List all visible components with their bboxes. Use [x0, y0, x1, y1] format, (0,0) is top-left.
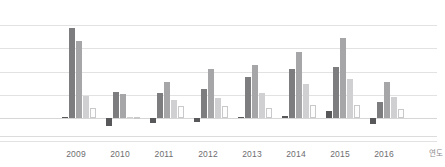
x-tick-label: 2010	[100, 149, 140, 159]
x-tick-label: 2016	[364, 149, 404, 159]
bar	[384, 82, 390, 118]
bar	[354, 105, 360, 118]
bar	[171, 100, 177, 118]
bar	[333, 67, 339, 118]
bar	[303, 84, 309, 118]
bar	[113, 92, 119, 118]
bar-group	[282, 0, 326, 137]
bar	[83, 96, 89, 118]
bar	[222, 106, 228, 118]
bar-group	[194, 0, 238, 137]
bar	[326, 111, 332, 118]
bar	[238, 117, 244, 118]
bar	[259, 93, 265, 118]
bar	[62, 117, 68, 118]
bar	[391, 97, 397, 118]
bar	[150, 118, 156, 123]
bar	[208, 69, 214, 118]
bar	[340, 38, 346, 118]
bar	[201, 89, 207, 118]
x-axis: 연도 20092010201120122013201420152016	[0, 137, 445, 167]
bar	[310, 105, 316, 118]
x-tick-label: 2013	[232, 149, 272, 159]
bar-group	[150, 0, 194, 137]
bar-group	[370, 0, 414, 137]
bar	[245, 77, 251, 118]
bar	[347, 79, 353, 118]
bar	[215, 98, 221, 118]
bar	[120, 94, 126, 118]
bar	[164, 82, 170, 118]
bar	[398, 109, 404, 118]
bar	[194, 118, 200, 122]
bar	[370, 118, 376, 124]
bar-chart: 연도 20092010201120122013201420152016	[0, 0, 445, 167]
bar	[157, 93, 163, 118]
bar-group	[326, 0, 370, 137]
x-tick-label: 2011	[144, 149, 184, 159]
bar	[134, 117, 140, 119]
bar	[76, 41, 82, 118]
bar	[289, 69, 295, 118]
bar	[178, 106, 184, 118]
bar	[90, 108, 96, 118]
x-tick-label: 2014	[276, 149, 316, 159]
bar	[266, 108, 272, 118]
plot-area	[0, 0, 445, 137]
bar-group	[238, 0, 282, 137]
bar	[127, 117, 133, 118]
bar	[106, 118, 112, 126]
x-tick-label: 2015	[320, 149, 360, 159]
bar-group	[62, 0, 106, 137]
bar	[282, 116, 288, 118]
x-axis-title: 연도	[429, 147, 443, 158]
x-tick-label: 2012	[188, 149, 228, 159]
bar	[296, 52, 302, 118]
bar	[69, 28, 75, 118]
bar-group	[106, 0, 150, 137]
bar	[252, 65, 258, 118]
bar	[377, 102, 383, 118]
x-tick-label: 2009	[56, 149, 96, 159]
